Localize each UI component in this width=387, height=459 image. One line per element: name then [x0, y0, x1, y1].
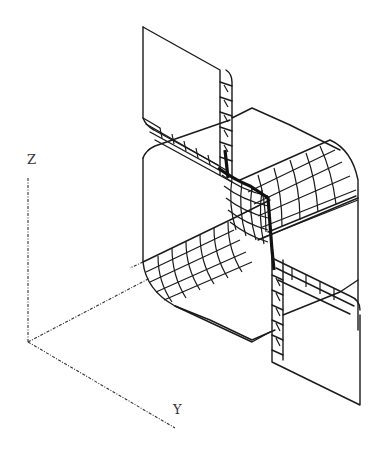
z-axis-label: Z [27, 152, 36, 167]
y-axis [28, 342, 175, 428]
panel-lower-center [175, 198, 358, 342]
y-axis-label: Y [173, 402, 182, 417]
x-axis [28, 278, 150, 342]
mesh-upper-right [240, 140, 358, 330]
axes [28, 178, 175, 428]
wireframe-diagram [0, 0, 387, 459]
panel-top-left [143, 27, 232, 182]
panel-lower-right [272, 255, 360, 405]
